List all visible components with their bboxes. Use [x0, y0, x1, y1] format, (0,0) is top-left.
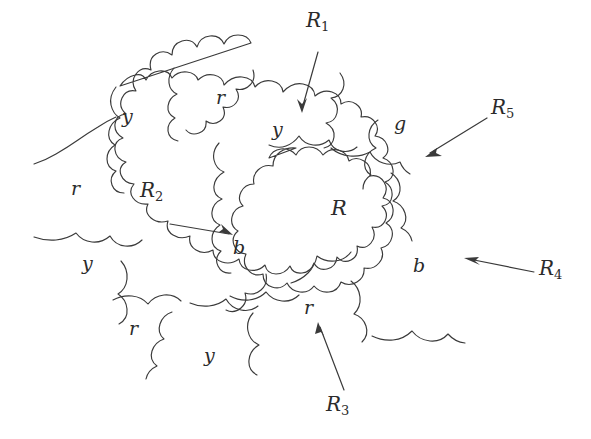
annotation-label-R1: R1: [306, 10, 329, 33]
annotation-label-R4: R4: [539, 258, 562, 281]
edge-lower-r-right-b: [351, 281, 367, 342]
arrow-R4: [464, 257, 534, 272]
color-label-r-left: r: [71, 179, 80, 198]
color-label-r-top: r: [216, 88, 225, 107]
color-label-y-upper-left: y: [122, 107, 133, 126]
annotation-R2-base: R: [140, 178, 155, 202]
edge-b-bottom: [230, 292, 299, 301]
color-label-y-bottom: y: [204, 346, 215, 365]
edge-bottom-y-right: [248, 313, 259, 375]
map-regions-drawing: [0, 0, 591, 439]
edge-left-r-upper-y: [34, 117, 116, 164]
arrow-R2: [170, 224, 233, 235]
color-label-y-top-center: y: [272, 120, 283, 139]
annotation-R3-subscript: 3: [341, 403, 349, 418]
edge-center-y-g: [324, 73, 344, 148]
arrow-R1: [297, 52, 318, 113]
edge-upper-y-top-r: [168, 68, 178, 141]
annotation-R1-base: R: [306, 8, 321, 32]
edge-g-right-b: [391, 173, 412, 241]
color-label-g: g: [394, 114, 406, 133]
annotation-R3-base: R: [326, 392, 341, 416]
annotation-label-R2: R2: [140, 180, 163, 203]
annotation-label-R3: R3: [326, 394, 349, 417]
color-label-y-lower-left: y: [82, 254, 93, 273]
annotation-R1-subscript: 1: [321, 19, 329, 34]
edge-bottom-y-b: [190, 299, 258, 311]
annotation-R2-subscript: 2: [155, 189, 163, 204]
edge-right-b-bottom: [372, 331, 465, 343]
figure-canvas: y r y g r b b y r y r R R1 R2 R3 R4 R5: [0, 0, 591, 439]
map-outer-boundary: [115, 35, 393, 274]
arrow-R5: [425, 118, 487, 157]
edge-b-left: [212, 143, 231, 273]
annotation-R4-subscript: 4: [554, 267, 562, 282]
annotation-label-R5: R5: [491, 97, 514, 120]
arrow-R3: [315, 322, 344, 390]
color-label-r-bottom-center: r: [304, 298, 313, 317]
annotation-R5-base: R: [491, 95, 506, 119]
edge-lower-y-lower-r: [118, 261, 127, 324]
annotation-R5-subscript: 5: [506, 106, 514, 121]
color-label-b-right: b: [413, 256, 425, 275]
color-label-r-lower-left: r: [129, 319, 138, 338]
annotation-R4-base: R: [539, 256, 554, 280]
edge-lower-r-R: [291, 252, 351, 283]
region-label-R: R: [331, 198, 347, 219]
edge-left-r-lower-y: [34, 233, 142, 246]
color-label-b-center: b: [233, 238, 245, 257]
edge-lower-r-bottom-y: [146, 312, 172, 379]
